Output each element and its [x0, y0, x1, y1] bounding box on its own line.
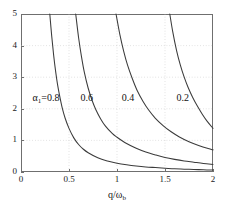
y-tick-mark: [21, 109, 24, 110]
y-tick-mark: [21, 77, 24, 78]
y-tick-label: 1: [1, 135, 17, 144]
curve-label-3: 0.2: [177, 93, 190, 103]
x-tick-mark: [213, 169, 214, 172]
y-tick-mark: [21, 14, 24, 15]
x-tick-label: 1.5: [153, 175, 177, 184]
data-curve-3: [170, 14, 213, 128]
x-tick-label: 0: [9, 175, 33, 184]
x-tick-mark: [165, 169, 166, 172]
curve-label-2: 0.4: [122, 93, 135, 103]
y-tick-mark: [21, 46, 24, 47]
y-tick-label: 2: [1, 104, 17, 113]
x-tick-label: 2: [201, 175, 225, 184]
x-axis-title-denominator-subscript: b: [122, 194, 126, 202]
y-tick-label: 4: [1, 41, 17, 50]
data-curve-1: [76, 14, 213, 164]
x-tick-mark: [21, 169, 22, 172]
x-axis-title: q/ωb: [21, 189, 213, 204]
y-tick-label: 5: [1, 9, 17, 18]
curve-label-0: α1=0.8: [33, 93, 60, 106]
figure-container: 01234500.511.52 α1=0.80.60.40.2 q/ωb: [0, 0, 235, 207]
data-curve-2: [116, 14, 213, 150]
x-tick-label: 0.5: [57, 175, 81, 184]
curve-label-1: 0.6: [81, 93, 94, 103]
x-tick-mark: [117, 169, 118, 172]
x-tick-mark: [69, 169, 70, 172]
curve-label-value: =0.8: [41, 92, 59, 103]
y-tick-label: 3: [1, 72, 17, 81]
y-tick-mark: [21, 140, 24, 141]
y-tick-mark: [21, 172, 24, 173]
x-tick-label: 1: [105, 175, 129, 184]
